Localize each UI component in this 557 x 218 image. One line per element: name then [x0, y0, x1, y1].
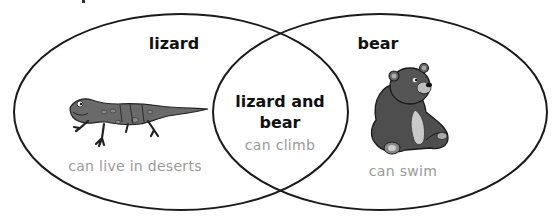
- right-set-title: bear: [342, 34, 414, 53]
- left-set-title: lizard: [138, 34, 210, 53]
- bear-icon: [372, 64, 449, 155]
- intersection-title-line1: lizard and: [224, 92, 336, 111]
- cropped-text-fragment: [82, 0, 85, 3]
- lizard-icon: [70, 99, 208, 146]
- intersection-title-line2: bear: [224, 113, 336, 132]
- left-set-trait: can live in deserts: [60, 158, 210, 174]
- intersection-trait: can climb: [224, 137, 336, 153]
- right-set-trait: can swim: [360, 163, 446, 179]
